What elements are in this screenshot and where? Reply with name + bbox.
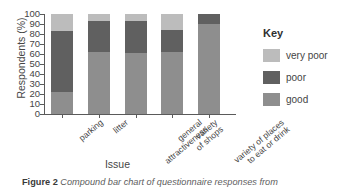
y-tick-mark (40, 84, 44, 85)
y-tick-mark (40, 94, 44, 95)
legend-swatch (263, 49, 280, 62)
bar-segment-good[interactable] (51, 92, 73, 114)
legend-item[interactable]: very poor (263, 49, 345, 62)
bar-segment-very-poor[interactable] (51, 14, 73, 31)
bar-segment-good[interactable] (161, 52, 183, 114)
legend-label: poor (286, 72, 306, 83)
y-axis-title: Respondents (%) (15, 10, 27, 106)
y-tick-mark (40, 34, 44, 35)
x-tick-mark (62, 114, 63, 118)
y-tick-mark (40, 74, 44, 75)
bar-segment-very-poor[interactable] (161, 14, 183, 30)
x-tick-label-line: litter (112, 118, 130, 136)
y-tick-mark (40, 54, 44, 55)
legend-swatch (263, 71, 280, 84)
plot-area: 1009080706050403020100 (44, 14, 227, 114)
x-tick-label-line: parking (78, 118, 106, 143)
legend-item[interactable]: poor (263, 71, 345, 84)
bar-stack[interactable] (198, 14, 220, 114)
bar-segment-poor[interactable] (161, 30, 183, 52)
x-tick-mark (172, 114, 173, 118)
x-tick-mark (136, 114, 137, 118)
figure-root: Respondents (%) 1009080706050403020100 I… (0, 0, 345, 188)
bar-segment-very-poor[interactable] (88, 14, 110, 21)
bar-stack[interactable] (161, 14, 183, 114)
bar-segment-very-poor[interactable] (125, 14, 147, 21)
legend-label: very poor (286, 50, 328, 61)
bar-segment-good[interactable] (198, 24, 220, 114)
bar-segment-poor[interactable] (198, 14, 220, 24)
figure-caption: Figure 2 Compound bar chart of questionn… (22, 177, 327, 188)
caption-text: Compound bar chart of questionnaire resp… (60, 177, 278, 187)
x-tick-mark (209, 114, 210, 118)
y-tick-mark (40, 114, 44, 115)
x-tick-label: litter (112, 118, 130, 136)
y-tick-mark (40, 64, 44, 65)
legend-item[interactable]: good (263, 93, 345, 106)
legend-items: very poorpoorgood (263, 49, 345, 106)
legend-label: good (286, 94, 308, 105)
y-tick-mark (40, 24, 44, 25)
bar-segment-poor[interactable] (51, 31, 73, 92)
bar-segment-poor[interactable] (125, 21, 147, 53)
x-tick-label: parking (78, 118, 106, 143)
y-tick-mark (40, 14, 44, 15)
bar-segment-good[interactable] (88, 52, 110, 114)
legend: Key very poorpoorgood (263, 27, 345, 115)
bar-stack[interactable] (125, 14, 147, 114)
bar-stack[interactable] (88, 14, 110, 114)
legend-title: Key (263, 27, 345, 39)
caption-figure-number: Figure 2 (22, 177, 58, 187)
legend-swatch (263, 93, 280, 106)
x-axis-title: Issue (0, 158, 235, 170)
y-tick-mark (40, 44, 44, 45)
bar-stack[interactable] (51, 14, 73, 114)
x-tick-label: variety of placesto eat or drink (232, 118, 292, 172)
bar-segment-poor[interactable] (88, 21, 110, 52)
y-tick-mark (40, 104, 44, 105)
bar-segment-good[interactable] (125, 53, 147, 114)
